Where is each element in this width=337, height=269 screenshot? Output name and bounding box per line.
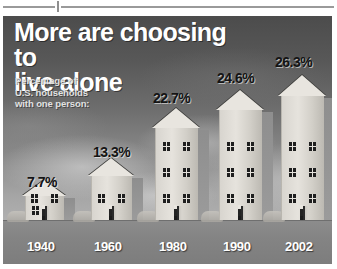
house-window xyxy=(163,142,170,151)
subtitle-line-3: with one person: xyxy=(15,98,165,110)
house-window xyxy=(309,168,316,177)
bar-house xyxy=(281,75,323,220)
house-window xyxy=(227,142,234,151)
chart-subtitle: Percentage of U.S. households with one p… xyxy=(15,75,165,110)
x-axis-tick-label: 1980 xyxy=(159,239,187,254)
house-wall xyxy=(219,110,262,220)
house-window xyxy=(183,168,190,177)
house-window xyxy=(183,194,190,203)
house-window xyxy=(31,194,38,203)
house-window xyxy=(289,142,296,151)
headline-line-1: More are choosing to xyxy=(14,18,226,71)
house-roof xyxy=(278,72,326,96)
person-figure xyxy=(238,205,241,220)
x-axis-tick-label: 1940 xyxy=(27,239,55,254)
value-label: 24.6% xyxy=(217,70,254,86)
person-figure xyxy=(42,205,45,220)
x-axis-tick-label: 1990 xyxy=(223,239,251,254)
house-window xyxy=(247,194,254,203)
value-label: 7.7% xyxy=(27,174,57,190)
infographic-root: More are choosing to live alone Percenta… xyxy=(0,0,337,269)
house-window xyxy=(183,142,190,151)
house-window xyxy=(98,194,105,203)
house-window xyxy=(309,142,316,151)
house-window xyxy=(163,168,170,177)
house-window xyxy=(227,168,234,177)
house-window xyxy=(289,168,296,177)
house-window xyxy=(247,168,254,177)
house-window xyxy=(163,194,170,203)
value-label: 26.3% xyxy=(275,54,312,70)
person-figure xyxy=(109,205,112,220)
x-axis-tick-label: 2002 xyxy=(285,239,313,254)
bar-house xyxy=(155,108,197,220)
house-roof xyxy=(152,105,200,128)
top-rule-right-segment xyxy=(61,6,334,8)
bar-house xyxy=(91,158,131,220)
house-wall xyxy=(281,96,324,220)
bar-house xyxy=(219,90,261,220)
top-rule-tick xyxy=(57,1,59,12)
value-label: 22.7% xyxy=(153,90,190,106)
top-rule xyxy=(3,5,334,8)
house-roof xyxy=(216,87,264,110)
house-window xyxy=(32,206,39,215)
subtitle-line-2: U.S. households xyxy=(15,87,165,99)
top-rule-left-segment xyxy=(3,6,55,8)
subtitle-line-1: Percentage of xyxy=(15,75,165,87)
house-window xyxy=(247,142,254,151)
x-axis-tick-label: 1960 xyxy=(94,239,122,254)
person-figure xyxy=(174,205,177,220)
house-window xyxy=(227,194,234,203)
value-label: 13.3% xyxy=(93,144,130,160)
chart-artwork: More are choosing to live alone Percenta… xyxy=(3,16,332,264)
house-window xyxy=(289,194,296,203)
house-window xyxy=(309,194,316,203)
house-window xyxy=(118,194,125,203)
house-window xyxy=(51,194,58,203)
person-figure xyxy=(300,205,303,220)
